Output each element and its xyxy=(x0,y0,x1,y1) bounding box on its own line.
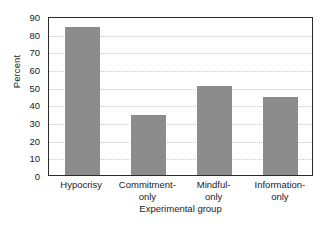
x-tick-label-line: only xyxy=(247,191,313,203)
y-tick-label-50: 50 xyxy=(29,82,40,93)
y-tick-label-40: 40 xyxy=(29,100,40,111)
y-tick-label-80: 80 xyxy=(29,29,40,40)
x-tick-label-line: Hypocrisy xyxy=(48,179,114,191)
x-tick-label: Information-only xyxy=(247,179,313,202)
x-tick-label-line: Information- xyxy=(247,179,313,191)
x-tick-label-line: only xyxy=(181,191,247,203)
x-tick-label: Mindful-only xyxy=(181,179,247,202)
y-axis-tick-labels: 0102030405060708090 xyxy=(0,17,44,176)
bars-group xyxy=(49,18,312,175)
x-axis-title: Experimental group xyxy=(48,203,313,214)
y-tick-label-20: 20 xyxy=(29,135,40,146)
y-tick-label-90: 90 xyxy=(29,12,40,23)
x-tick-label: Commitment-only xyxy=(114,179,180,202)
bar xyxy=(263,97,298,175)
bar xyxy=(65,27,100,175)
x-tick-label: Hypocrisy xyxy=(48,179,114,191)
x-tick-label-line: only xyxy=(114,191,180,203)
y-tick-label-70: 70 xyxy=(29,47,40,58)
bar xyxy=(197,86,232,175)
plot-area xyxy=(48,17,313,176)
y-tick-label-0: 0 xyxy=(35,171,40,182)
x-tick-label-line: Mindful- xyxy=(181,179,247,191)
bar xyxy=(131,115,166,175)
y-tick-label-60: 60 xyxy=(29,65,40,76)
x-tick-label-line: Commitment- xyxy=(114,179,180,191)
y-tick-label-30: 30 xyxy=(29,118,40,129)
y-tick-label-10: 10 xyxy=(29,153,40,164)
bar-chart-figure: Percent 0102030405060708090 HypocrisyCom… xyxy=(0,0,331,226)
